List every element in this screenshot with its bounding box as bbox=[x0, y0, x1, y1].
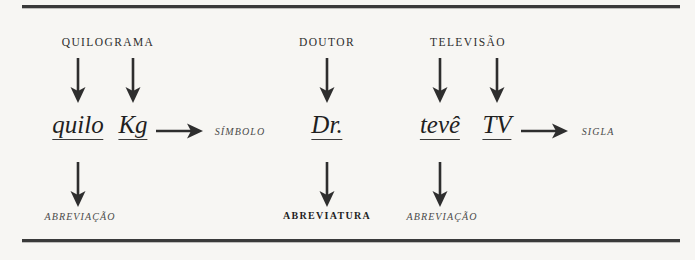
result-label-abreviacao-left: ABREVIAÇÃO bbox=[45, 212, 116, 222]
result-label-abreviacao-right: ABREVIAÇÃO bbox=[407, 212, 478, 222]
result-label-abreviatura: ABREVIATURA bbox=[283, 211, 371, 221]
result-label-sigla: SIGLA bbox=[582, 127, 615, 137]
arrow-right-to-sigla bbox=[521, 120, 569, 142]
top-rule bbox=[22, 5, 680, 8]
arrow-down-televisao-to-teve bbox=[429, 58, 451, 104]
source-word-quilograma: QUILOGRAMA bbox=[62, 37, 155, 49]
result-label-simbolo: SÍMBOLO bbox=[215, 127, 265, 137]
source-word-doutor: DOUTOR bbox=[299, 37, 355, 49]
form-kg: Kg bbox=[118, 112, 147, 140]
abbreviation-diagram: QUILOGRAMA quilo Kg SÍMBOLO ABREVIAÇÃO D… bbox=[0, 0, 695, 260]
arrow-down-teve-to-abreviacao bbox=[429, 162, 451, 208]
form-teve: tevê bbox=[420, 112, 460, 140]
arrow-down-dr-to-abreviatura bbox=[316, 162, 338, 208]
arrow-down-quilograma-to-quilo bbox=[67, 58, 89, 104]
form-quilo: quilo bbox=[52, 112, 103, 140]
arrow-down-quilograma-to-kg bbox=[122, 58, 144, 104]
bottom-rule bbox=[22, 239, 680, 242]
source-word-televisao: TELEVISÃO bbox=[430, 37, 506, 49]
arrow-down-doutor-to-dr bbox=[316, 58, 338, 104]
form-tv: TV bbox=[482, 112, 511, 140]
form-dr: Dr. bbox=[311, 112, 342, 140]
arrow-down-televisao-to-tv bbox=[486, 58, 508, 104]
arrow-down-quilo-to-abreviacao bbox=[67, 162, 89, 208]
arrow-right-to-simbolo bbox=[156, 120, 204, 142]
